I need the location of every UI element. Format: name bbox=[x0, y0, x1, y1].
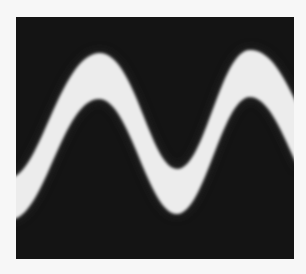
sine-wave-trace bbox=[0, 0, 306, 274]
